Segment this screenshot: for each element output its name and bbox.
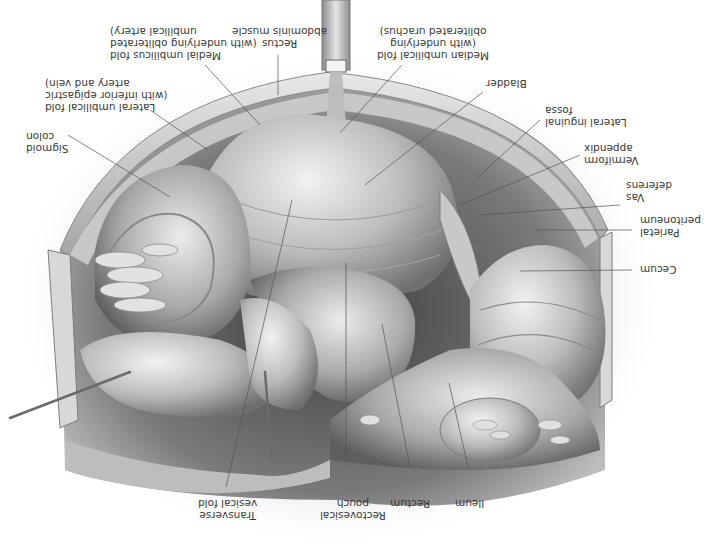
label-bladder: Bladder — [486, 78, 527, 90]
ileum-loop — [440, 398, 540, 462]
label-line: deferens — [626, 180, 672, 192]
label-line: vesical fold — [198, 498, 257, 510]
label-lateral-umbilical-fold: Lateral umbilical fold (with inferior ep… — [45, 78, 168, 114]
label-line: Transverse — [198, 510, 257, 522]
label-line: umbilical artery) — [110, 26, 257, 38]
label-rectum: Rectum — [390, 498, 430, 510]
label-line: artery and vein) — [45, 78, 168, 90]
label-line: Sigmoid — [26, 143, 68, 155]
label-line: peritoneum — [640, 215, 701, 227]
label-medial-umbilical-fold: Medial umbilicus fold (with underlying o… — [110, 26, 257, 62]
label-line: Median umbilical fold — [377, 50, 489, 62]
label-lateral-inguinal-fossa: Lateral inguinal fossa — [545, 105, 627, 129]
label-line: (with underlying — [377, 38, 489, 50]
label-median-umbilical-fold: Median umbilical fold (with underlying o… — [377, 26, 489, 62]
label-line: obliterated urachus) — [377, 26, 489, 38]
label-line: colon — [26, 131, 68, 143]
label-line: Rectum — [390, 498, 430, 510]
label-sigmoid-colon: Sigmoid colon — [26, 131, 68, 155]
label-line: (with underlying obliterated — [110, 38, 257, 50]
label-line: Bladder — [486, 78, 527, 90]
label-line: Vermiform — [584, 155, 639, 167]
label-line: pouch — [320, 498, 386, 510]
label-line: Ileum — [455, 498, 484, 510]
label-line: appendix — [584, 143, 639, 155]
label-transverse-vesical-fold: Transverse vesical fold — [198, 498, 257, 522]
label-line: Vas — [626, 192, 672, 204]
label-line: Medial umbilicus fold — [110, 50, 257, 62]
label-parietal-peritoneum: Parietal peritoneum — [640, 215, 701, 239]
label-cecum: Cecum — [640, 264, 676, 276]
label-line: (with inferior epigastric — [45, 90, 168, 102]
label-line: fossa — [545, 105, 627, 117]
label-line: Lateral inguinal — [545, 117, 627, 129]
retractor-tip — [326, 60, 346, 72]
label-rectovesical-pouch: Rectovesical pouch — [320, 498, 386, 522]
label-ileum: Ileum — [455, 498, 484, 510]
label-line: Cecum — [640, 264, 676, 276]
label-line: Rectovesical — [320, 510, 386, 522]
anatomy-figure: Rectus abdominis muscle Medial umbilicus… — [0, 0, 711, 554]
label-line: Parietal — [640, 227, 701, 239]
label-vas-deferens: Vas deferens — [626, 180, 672, 204]
label-line: Lateral umbilical fold — [45, 102, 168, 114]
label-vermiform-appendix: Vermiform appendix — [584, 143, 639, 167]
